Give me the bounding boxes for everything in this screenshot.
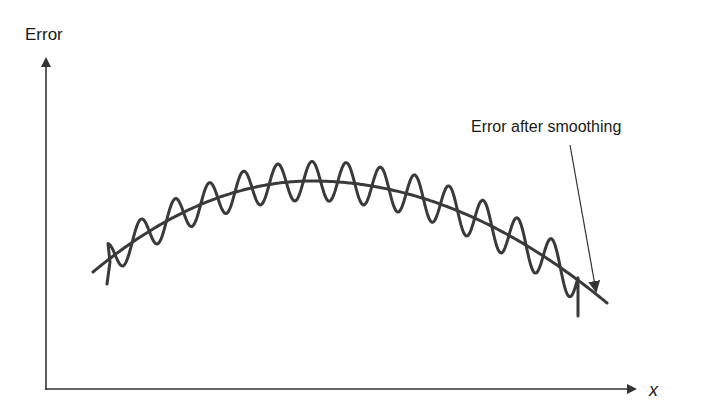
smoothed-error-curve: [93, 181, 607, 303]
x-axis-label: x: [648, 380, 659, 400]
axes: [45, 62, 632, 390]
annotation-label: Error after smoothing: [471, 118, 621, 135]
annotation-arrow: [570, 145, 596, 291]
y-axis-label: Error: [25, 25, 63, 44]
error-smoothing-diagram: Error x Error after smoothing: [0, 0, 703, 417]
unsmoothed-error-curve: [107, 161, 578, 316]
